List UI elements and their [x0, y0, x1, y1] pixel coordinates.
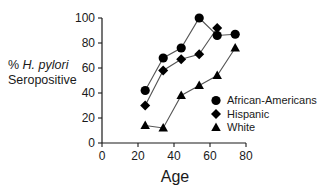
data-point-diamond — [158, 66, 168, 76]
data-point-triangle — [230, 43, 240, 52]
legend-label: White — [227, 121, 255, 133]
chart-svg: 020406080100020406080African-AmericansHi… — [0, 0, 317, 196]
legend-entry: African-Americans — [211, 94, 317, 106]
y-tick-label: 20 — [82, 111, 96, 125]
data-point-circle — [159, 53, 168, 62]
y-tick-label: 100 — [75, 11, 95, 25]
data-point-circle — [195, 13, 204, 22]
y-tick-label: 40 — [82, 86, 96, 100]
x-tick-label: 60 — [203, 149, 217, 163]
y-tick-label: 60 — [82, 61, 96, 75]
data-point-circle — [231, 30, 240, 39]
data-point-triangle — [176, 91, 186, 100]
data-point-circle — [177, 43, 186, 52]
series-triangle — [145, 48, 235, 128]
data-point-diamond — [176, 54, 186, 64]
legend-label: African-Americans — [227, 94, 317, 106]
series-line — [145, 48, 235, 128]
legend-entry: Hispanic — [211, 108, 270, 120]
legend-marker-diamond — [211, 109, 221, 119]
x-tick-label: 80 — [239, 149, 253, 163]
plot-area: 020406080100020406080African-AmericansHi… — [75, 11, 317, 163]
data-point-diamond — [140, 101, 150, 111]
legend-marker-circle — [211, 96, 220, 105]
x-tick-label: 20 — [131, 149, 145, 163]
data-point-diamond — [194, 49, 204, 59]
data-point-circle — [141, 86, 150, 95]
y-tick-label: 80 — [82, 36, 96, 50]
data-point-triangle — [194, 81, 204, 90]
data-point-triangle — [212, 71, 222, 80]
x-tick-label: 40 — [167, 149, 181, 163]
legend-label: Hispanic — [227, 108, 270, 120]
x-tick-label: 0 — [99, 149, 106, 163]
legend-marker-triangle — [211, 123, 221, 132]
legend-entry: White — [211, 121, 255, 133]
data-point-triangle — [140, 121, 150, 130]
series-markers-circle — [141, 13, 240, 95]
chart-container: % H. pylori Seropositive Age 02040608010… — [0, 0, 317, 196]
y-tick-label: 0 — [88, 136, 95, 150]
